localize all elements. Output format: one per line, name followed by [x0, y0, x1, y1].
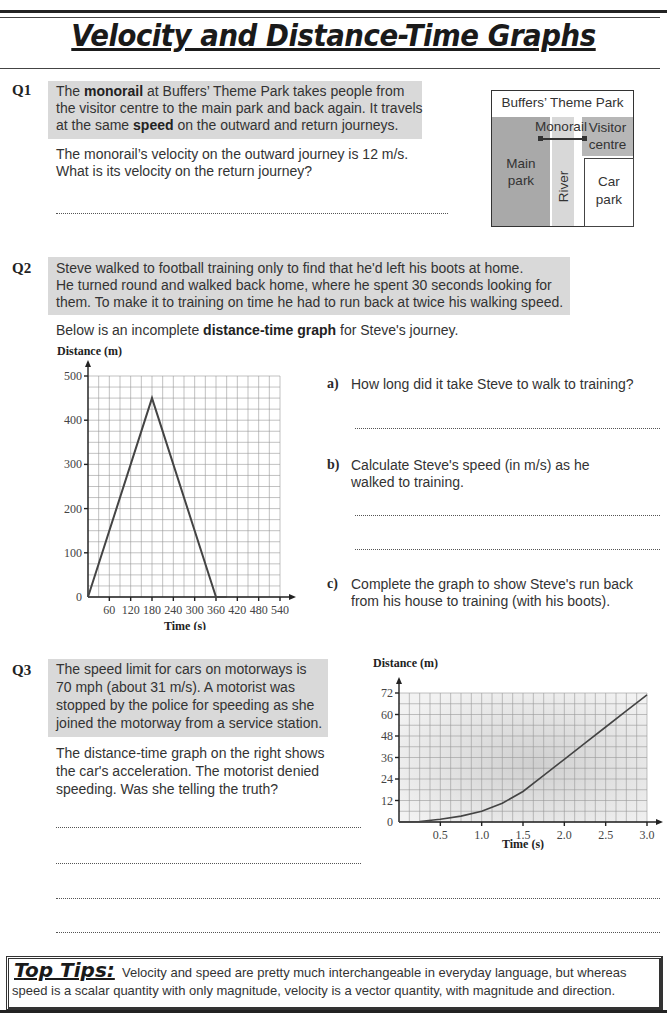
svg-text:540: 540 [271, 603, 289, 617]
q3-intro-line2: 70 mph (about 31 m/s). A motorist was [56, 679, 295, 696]
question-number-q2: Q2 [12, 260, 31, 277]
top-tips-line1: Velocity and speed are pretty much inter… [122, 964, 626, 981]
svg-text:48: 48 [381, 729, 393, 743]
header-rule-thick [0, 10, 667, 13]
q1-question-line1: The monorail’s velocity on the outward j… [56, 146, 408, 163]
q2a-answer-line[interactable] [355, 428, 660, 429]
svg-text:0.5: 0.5 [433, 828, 448, 842]
q3-answer-line-3[interactable] [56, 898, 660, 899]
svg-text:36: 36 [381, 751, 393, 765]
q2-intro-line2: He turned round and walked back home, wh… [56, 277, 552, 294]
q3-answer-line-1[interactable] [56, 827, 361, 828]
title-rule [0, 68, 660, 69]
svg-text:180: 180 [143, 603, 161, 617]
svg-text:60: 60 [103, 603, 115, 617]
svg-text:0: 0 [387, 815, 393, 829]
q3-answer-line-2[interactable] [56, 863, 361, 864]
map-monorail-station-left [538, 136, 543, 141]
svg-text:Time (s): Time (s) [164, 619, 206, 630]
q1-intro-text: The monorail at Buffers’ Theme Park take… [56, 83, 424, 134]
svg-text:420: 420 [228, 603, 246, 617]
svg-text:12: 12 [381, 794, 393, 808]
svg-text:3.0: 3.0 [640, 828, 655, 842]
svg-text:240: 240 [164, 603, 182, 617]
svg-text:2.5: 2.5 [598, 828, 613, 842]
q2-graph-intro: Below is an incomplete distance-time gra… [56, 322, 458, 339]
q1-answer-line[interactable] [56, 213, 448, 214]
top-tips-line2: speed is a scalar quantity with only mag… [12, 982, 615, 999]
map-monorail-track [540, 138, 584, 140]
svg-text:360: 360 [207, 603, 225, 617]
q3-intro-line3: stopped by the police for speeding as sh… [56, 697, 314, 714]
q2-intro-line1: Steve walked to football training only t… [56, 260, 523, 277]
svg-text:400: 400 [64, 413, 82, 427]
q3-question-line2: the car's acceleration. The motorist den… [56, 763, 319, 780]
map-monorail-station-right [582, 136, 587, 141]
q2b-answer-line-2[interactable] [355, 549, 660, 550]
svg-text:300: 300 [64, 457, 82, 471]
svg-text:200: 200 [64, 502, 82, 516]
svg-text:Distance (m): Distance (m) [373, 656, 438, 670]
svg-text:500: 500 [64, 369, 82, 383]
svg-text:24: 24 [381, 772, 393, 786]
question-number-q3: Q3 [12, 662, 31, 679]
question-number-q1: Q1 [12, 82, 31, 99]
svg-text:2.0: 2.0 [557, 828, 572, 842]
map-monorail-label: Monorail [516, 119, 606, 134]
q3-intro-line4: joined the motorway from a service stati… [56, 715, 322, 732]
svg-text:60: 60 [381, 708, 393, 722]
car-distance-time-chart: Distance (m) 01224364860720.51.01.52.02.… [360, 650, 667, 850]
q3-answer-line-4[interactable] [56, 932, 660, 933]
svg-text:480: 480 [250, 603, 268, 617]
q2-intro-line3: them. To make it to training on time he … [56, 294, 563, 311]
q3-question-line1: The distance-time graph on the right sho… [56, 745, 324, 762]
svg-text:72: 72 [381, 686, 393, 700]
svg-text:Distance (m): Distance (m) [57, 344, 122, 358]
footer-rule [0, 1010, 667, 1013]
steve-distance-time-chart: Distance (m) 010020030040050060120180240… [0, 340, 310, 630]
theme-park-map: Buffers’ Theme Park Main park River Visi… [491, 90, 634, 227]
q3-question-line3: speeding. Was she telling the truth? [56, 781, 278, 798]
svg-text:0: 0 [76, 590, 82, 604]
top-tips-heading: Top Tips: [14, 958, 115, 982]
page-title: Velocity and Distance-Time Graphs [27, 18, 641, 53]
svg-text:Time (s): Time (s) [502, 837, 544, 850]
q2b-answer-line-1[interactable] [355, 515, 660, 516]
svg-text:120: 120 [122, 603, 140, 617]
svg-text:300: 300 [186, 603, 204, 617]
svg-text:100: 100 [64, 546, 82, 560]
q3-intro-line1: The speed limit for cars on motorways is [56, 661, 307, 678]
map-title: Buffers’ Theme Park [492, 91, 633, 115]
map-car-park: Car park [584, 158, 634, 227]
svg-text:1.0: 1.0 [474, 828, 489, 842]
q1-question-line2: What is its velocity on the return journ… [56, 163, 312, 180]
